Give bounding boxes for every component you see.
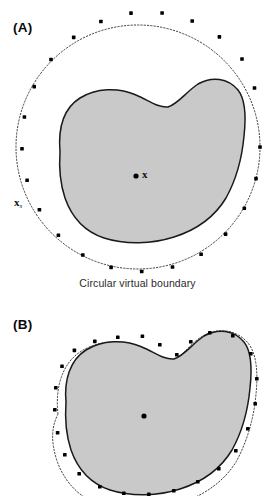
panel-a-graphic bbox=[0, 0, 275, 296]
panel-a-label: (A) bbox=[13, 20, 32, 35]
panel-b-label: (B) bbox=[13, 317, 32, 332]
field-point-a bbox=[133, 173, 138, 178]
panel-b: (B) xs x Similar virtual boundary bbox=[0, 296, 275, 496]
field-point-b bbox=[141, 413, 146, 418]
physical-domain-b bbox=[66, 331, 252, 495]
panel-a: (A) xs x Circular virtual boundary bbox=[0, 0, 275, 296]
physical-domain-a bbox=[60, 79, 246, 243]
caption-a: Circular virtual boundary bbox=[0, 277, 275, 289]
source-point-label-a: xs bbox=[14, 196, 22, 210]
field-point-label-a: x bbox=[142, 168, 148, 180]
source-point-label-a-subscript: s bbox=[20, 202, 23, 210]
panel-b-graphic bbox=[0, 296, 275, 496]
figure-virtual-boundaries: (A) xs x Circular virtual boundary bbox=[0, 0, 275, 496]
